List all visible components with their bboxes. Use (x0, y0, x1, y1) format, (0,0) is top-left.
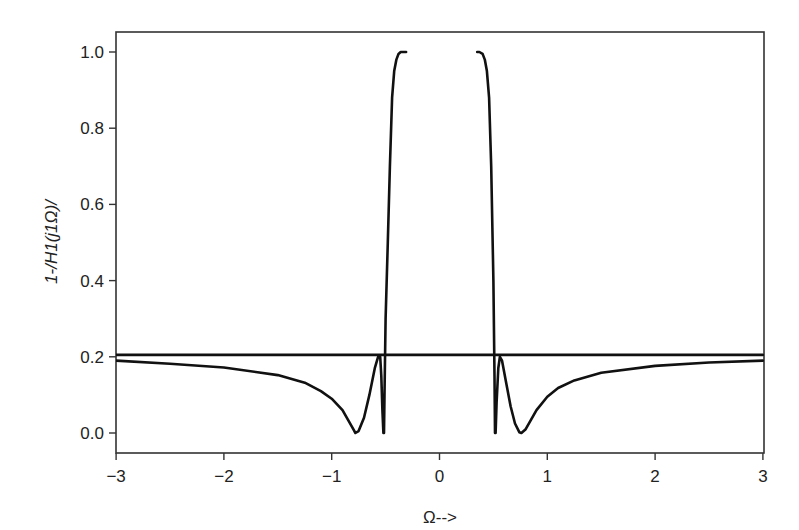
y-axis-label: 1-/H1(j1Ω)/ (42, 198, 61, 284)
x-tick-label: 1 (543, 467, 552, 486)
x-tick-label: 3 (758, 467, 767, 486)
series-layer (116, 52, 763, 433)
y-tick-label: 1.0 (80, 43, 104, 62)
x-tick-label: −1 (322, 467, 341, 486)
x-axis-label: Ω--> (423, 508, 457, 527)
y-tick-label: 0.8 (80, 119, 104, 138)
y-tick-label: 0.2 (80, 348, 104, 367)
chart: −3−2−10123 0.00.20.40.60.81.0 Ω--> 1-/H1… (0, 0, 799, 530)
y-tick-label: 0.6 (80, 195, 104, 214)
x-tick-label: −3 (106, 467, 125, 486)
y-tick-label: 0.4 (80, 272, 104, 291)
y-tick-label: 0.0 (80, 424, 104, 443)
series-line-0 (116, 52, 406, 433)
axes-box (116, 32, 764, 453)
x-tick-label: 2 (650, 467, 659, 486)
x-tick-label: −2 (214, 467, 233, 486)
plot-frame (116, 32, 764, 453)
y-axis-ticks: 0.00.20.40.60.81.0 (80, 43, 116, 443)
x-tick-label: 0 (435, 467, 444, 486)
x-axis-ticks: −3−2−10123 (106, 453, 767, 486)
series-line-1 (477, 52, 763, 433)
